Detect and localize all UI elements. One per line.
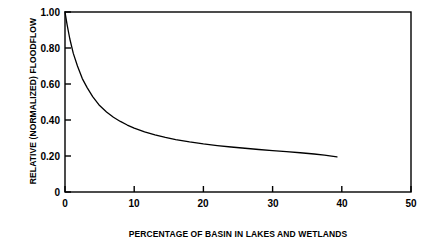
- chart-figure: RELATIVE (NORMALIZED) FLOODFLOW 1.00 0.8…: [0, 0, 428, 251]
- plot-area: [0, 0, 428, 251]
- floodflow-curve: [65, 12, 337, 157]
- x-tick-marks: [65, 186, 411, 192]
- axis-frame: [65, 12, 411, 192]
